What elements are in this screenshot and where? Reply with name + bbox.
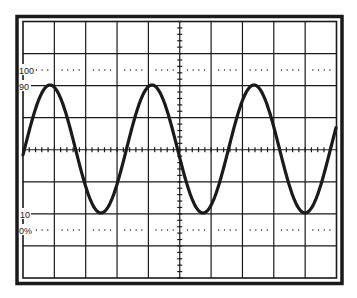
label-100: 100 xyxy=(19,66,34,76)
label-90: 90 xyxy=(19,82,29,92)
label-0-percent: 0% xyxy=(19,226,32,236)
oscilloscope-diagram: 100 90 10 0% xyxy=(0,0,357,298)
label-10: 10 xyxy=(20,210,30,220)
